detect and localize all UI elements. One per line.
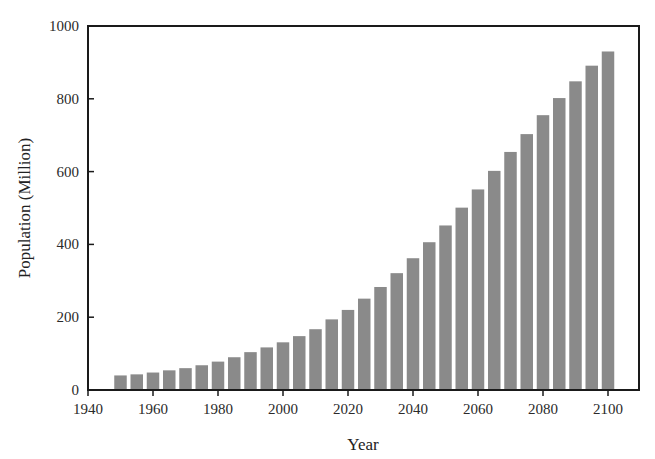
bar-1950 <box>114 375 127 390</box>
bar-2045 <box>423 242 436 390</box>
bar-2090 <box>569 81 582 390</box>
bar-1995 <box>261 347 274 390</box>
bar-2000 <box>277 342 290 390</box>
bar-2050 <box>439 225 452 390</box>
bar-2010 <box>309 329 322 390</box>
bar-2030 <box>374 287 387 390</box>
x-tick-label: 2100 <box>593 401 623 417</box>
bar-2020 <box>342 310 355 390</box>
x-axis-ticks: 194019601980200020202040206020802100 <box>73 390 623 417</box>
x-tick-label: 1980 <box>203 401 233 417</box>
y-tick-label: 600 <box>57 164 80 180</box>
bar-series <box>114 51 614 390</box>
bar-2005 <box>293 336 306 390</box>
bar-2075 <box>521 134 534 390</box>
bar-2060 <box>472 189 485 390</box>
bar-1960 <box>147 373 160 390</box>
bar-2065 <box>488 171 501 390</box>
bar-1975 <box>196 365 209 390</box>
bar-2055 <box>456 208 469 390</box>
population-bar-chart: 194019601980200020202040206020802100 020… <box>0 0 655 459</box>
y-tick-label: 0 <box>72 382 80 398</box>
y-tick-label: 200 <box>57 309 80 325</box>
x-tick-label: 1940 <box>73 401 103 417</box>
bar-1965 <box>163 370 176 390</box>
x-tick-label: 2020 <box>333 401 363 417</box>
y-tick-label: 1000 <box>49 18 79 34</box>
y-tick-label: 800 <box>57 91 80 107</box>
bar-2025 <box>358 299 371 390</box>
bar-2015 <box>326 319 339 390</box>
x-tick-label: 1960 <box>138 401 168 417</box>
bar-2095 <box>586 66 599 390</box>
x-axis-title: Year <box>347 435 379 454</box>
x-tick-label: 2040 <box>398 401 428 417</box>
bar-2070 <box>504 152 517 390</box>
bar-2085 <box>553 98 566 390</box>
y-tick-label: 400 <box>57 236 80 252</box>
x-tick-label: 2000 <box>268 401 298 417</box>
x-tick-label: 2080 <box>528 401 558 417</box>
bar-1955 <box>131 374 144 390</box>
bar-2040 <box>407 258 420 390</box>
bar-1980 <box>212 362 225 390</box>
y-axis-title: Population (Million) <box>15 138 34 278</box>
bar-2100 <box>602 51 615 390</box>
bar-1985 <box>228 357 241 390</box>
bar-1970 <box>179 368 192 390</box>
bar-2035 <box>391 273 404 390</box>
x-tick-label: 2060 <box>463 401 493 417</box>
bar-2080 <box>537 115 550 390</box>
bar-1990 <box>244 352 257 390</box>
